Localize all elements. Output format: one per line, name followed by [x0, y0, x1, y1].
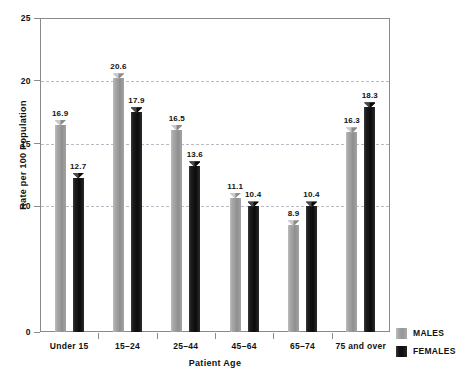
- bar-group-item: 20.6: [113, 73, 124, 332]
- legend: MALES FEMALES: [396, 326, 456, 362]
- bar-shaft: [248, 206, 259, 332]
- x-axis-category-label: 25–44: [173, 341, 198, 351]
- bar-shaft: [364, 107, 375, 332]
- bar-females: [131, 107, 142, 332]
- bar-shaft: [189, 166, 200, 332]
- y-axis-tick-label: 0: [26, 326, 31, 338]
- bar-shaft: [171, 130, 182, 332]
- x-axis-category-label: 65–74: [290, 341, 315, 351]
- bar-group-item: 16.3: [346, 127, 357, 332]
- y-axis-tick-label: 15: [21, 138, 31, 150]
- bar-group-item: 18.3: [364, 102, 375, 332]
- bar-group-item: 8.9: [288, 220, 299, 332]
- bar-females: [73, 173, 84, 333]
- bar-value-label: 10.4: [303, 190, 319, 199]
- bar-chart: Rate per 100 Population 010152025 16.912…: [0, 0, 459, 376]
- y-axis-tick: 20: [0, 75, 40, 87]
- x-axis-category-label: 75 and over: [336, 341, 387, 351]
- bar-shaft: [288, 225, 299, 332]
- bar-males: [346, 127, 357, 332]
- bar-group-item: 13.6: [189, 161, 200, 332]
- y-axis-tick: 25: [0, 12, 40, 24]
- bar-group-item: 17.9: [131, 107, 142, 332]
- bar-females: [248, 201, 259, 332]
- x-axis-tick-mark: [157, 333, 158, 339]
- bar-value-label: 10.4: [245, 190, 261, 199]
- bar-shaft: [131, 112, 142, 332]
- bar-value-label: 11.1: [227, 182, 243, 191]
- x-axis-title: Patient Age: [40, 358, 390, 368]
- bar-value-label: 20.6: [110, 62, 126, 71]
- bar-shaft: [346, 132, 357, 332]
- bar-shaft: [55, 125, 66, 332]
- bar-shaft: [73, 178, 84, 333]
- bar-group-item: 12.7: [73, 173, 84, 333]
- bar-shaft: [306, 206, 317, 332]
- bar-group-item: 10.4: [248, 201, 259, 332]
- bar-males: [288, 220, 299, 332]
- legend-swatch-females-icon: [396, 346, 407, 357]
- y-axis-tick-label: 20: [21, 75, 31, 87]
- bar-group-item: 10.4: [306, 201, 317, 332]
- bar-value-label: 16.9: [52, 109, 68, 118]
- bar-group-item: 16.9: [55, 120, 66, 332]
- bar-females: [364, 102, 375, 332]
- y-axis-tick: 15: [0, 138, 40, 150]
- x-axis-tick-mark: [273, 333, 274, 339]
- bar-shaft: [113, 78, 124, 332]
- bar-males: [171, 125, 182, 332]
- gridline: [41, 144, 389, 145]
- y-axis-tick-label: 25: [21, 12, 31, 24]
- y-axis-tick: 10: [0, 200, 40, 212]
- gridline: [41, 206, 389, 207]
- bar-value-label: 13.6: [187, 150, 203, 159]
- bar-shaft: [230, 198, 241, 332]
- gridline: [41, 81, 389, 82]
- bar-females: [189, 161, 200, 332]
- bar-value-label: 16.3: [344, 116, 360, 125]
- bar-value-label: 16.5: [169, 114, 185, 123]
- legend-item-males: MALES: [396, 326, 456, 341]
- bar-females: [306, 201, 317, 332]
- x-axis-tick-mark: [332, 333, 333, 339]
- x-axis-category-label: Under 15: [50, 341, 89, 351]
- legend-swatch-males-icon: [396, 328, 407, 339]
- bar-group-item: 11.1: [230, 193, 241, 332]
- legend-label-males: MALES: [413, 328, 444, 339]
- plot-area: 16.912.720.617.916.513.611.110.48.910.41…: [40, 18, 390, 332]
- y-axis-tick-label: 10: [21, 200, 31, 212]
- legend-item-females: FEMALES: [396, 344, 456, 359]
- legend-label-females: FEMALES: [413, 346, 456, 357]
- bar-group-item: 16.5: [171, 125, 182, 332]
- x-axis-category-label: 15–24: [115, 341, 140, 351]
- y-axis-tick: 0: [0, 326, 40, 338]
- x-axis-category-label: 45–64: [232, 341, 257, 351]
- bar-males: [55, 120, 66, 332]
- bar-males: [230, 193, 241, 332]
- x-axis-tick-mark: [98, 333, 99, 339]
- bar-value-label: 12.7: [70, 162, 86, 171]
- bar-value-label: 18.3: [362, 91, 378, 100]
- bar-value-label: 17.9: [128, 96, 144, 105]
- bar-males: [113, 73, 124, 332]
- x-axis-tick-mark: [215, 333, 216, 339]
- bar-value-label: 8.9: [288, 209, 300, 218]
